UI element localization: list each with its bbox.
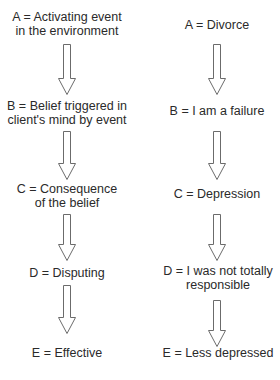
right-step-a: A = Divorce <box>185 18 249 32</box>
left-step-b-line2: client's mind by event <box>7 113 127 127</box>
left-step-d-line1: D = Disputing <box>29 266 104 280</box>
right-step-b: B = I am a failure <box>170 104 265 118</box>
left-step-c-line2: of the belief <box>17 196 117 210</box>
left-step-e: E = Effective <box>32 346 102 360</box>
down-arrow-icon <box>208 131 226 181</box>
down-arrow-icon <box>208 44 226 96</box>
down-arrow-icon <box>208 214 226 262</box>
left-step-c-line1: C = Consequence <box>17 182 117 196</box>
down-arrow-icon <box>58 214 76 262</box>
left-step-b: B = Belief triggered in client's mind by… <box>7 99 127 127</box>
left-step-a: A = Activating event in the environment <box>12 10 121 38</box>
down-arrow-icon <box>58 285 76 335</box>
right-step-e-line1: E = Less depressed <box>163 346 274 360</box>
left-step-d: D = Disputing <box>29 266 104 280</box>
right-step-b-line1: B = I am a failure <box>170 104 265 118</box>
right-step-c: C = Depression <box>174 187 261 201</box>
down-arrow-icon <box>58 44 76 96</box>
right-step-d: D = I was not totally responsible <box>163 264 272 292</box>
left-step-a-line1: A = Activating event <box>12 10 121 24</box>
left-step-b-line1: B = Belief triggered in <box>7 99 127 113</box>
left-step-e-line1: E = Effective <box>32 346 102 360</box>
left-step-c: C = Consequence of the belief <box>17 182 117 210</box>
right-step-d-line2: responsible <box>163 278 272 292</box>
down-arrow-icon <box>58 131 76 181</box>
right-step-a-line1: A = Divorce <box>185 18 249 32</box>
right-step-e: E = Less depressed <box>163 346 274 360</box>
right-step-d-line1: D = I was not totally <box>163 264 272 278</box>
left-step-a-line2: in the environment <box>12 24 121 38</box>
down-arrow-icon <box>208 300 226 348</box>
right-step-c-line1: C = Depression <box>174 187 261 201</box>
